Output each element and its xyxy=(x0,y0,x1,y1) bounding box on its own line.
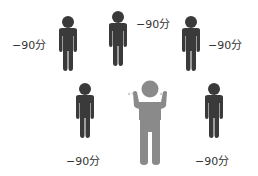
person-icon xyxy=(72,83,98,139)
svg-text:ᵍ ᵑ: ᵍ ᵑ xyxy=(128,91,134,97)
score-label: −90分 xyxy=(195,156,229,167)
score-label: −90分 xyxy=(66,156,100,167)
svg-text:ᵍ ᵑ: ᵍ ᵑ xyxy=(160,91,166,97)
score-label: −90分 xyxy=(136,19,170,30)
person-icon xyxy=(178,16,204,72)
person-icon xyxy=(55,16,81,72)
person-icon xyxy=(201,83,227,139)
score-label: −90分 xyxy=(12,40,46,51)
person-icon xyxy=(105,11,131,67)
score-label: −90分 xyxy=(208,40,242,51)
cheering-person-icon: ᵍ ᵑ ᵍ ᵑ xyxy=(124,80,176,166)
